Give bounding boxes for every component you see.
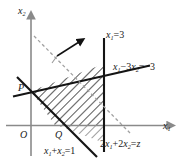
figure-canvas: x2 x1 P O Q x1=3 x1−3x2=−3 x1+x2=1 2x1+2… — [0, 0, 178, 166]
gradient-arrow — [57, 42, 79, 56]
x-axis-label: x1 — [163, 121, 171, 132]
label-x1-eq-3: x1=3 — [106, 30, 124, 41]
point-label-q: Q — [55, 130, 62, 140]
label-x1-plus-x2: x1+x2=1 — [44, 146, 75, 157]
y-axis-label: x2 — [18, 6, 26, 17]
point-label-o: O — [20, 130, 27, 140]
point-label-p: P — [18, 83, 24, 93]
plot-svg — [0, 0, 178, 166]
label-x1-minus-3x2: x1−3x2=−3 — [113, 62, 155, 73]
label-objective: 2x1+2x2=z — [100, 139, 140, 150]
